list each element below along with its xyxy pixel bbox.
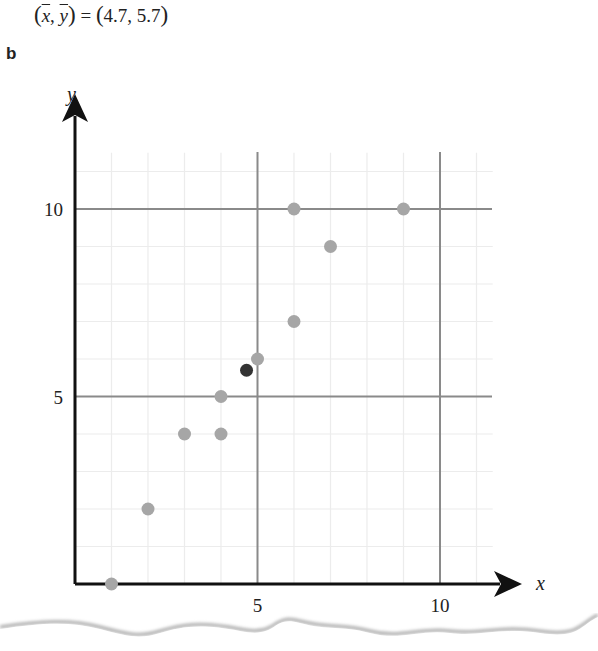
data-point: [288, 315, 301, 328]
x-axis-label: x: [535, 572, 545, 594]
scatter-plot: 510510 x y: [0, 0, 598, 651]
mean-point: [240, 364, 253, 377]
major-grid: [75, 152, 492, 584]
tick-labels: 510510: [44, 199, 450, 616]
minor-grid: [75, 153, 493, 584]
data-point: [288, 203, 301, 216]
torn-edge: [0, 601, 598, 651]
data-point: [324, 240, 337, 253]
data-point: [142, 503, 155, 516]
y-axis-label: y: [65, 83, 76, 106]
y-tick-label: 5: [54, 387, 64, 408]
data-point: [105, 578, 118, 591]
axes: [62, 94, 522, 597]
data-point: [215, 390, 228, 403]
data-point: [251, 353, 264, 366]
data-point: [215, 428, 228, 441]
data-point: [397, 203, 410, 216]
y-tick-label: 10: [44, 199, 63, 220]
data-point: [178, 428, 191, 441]
